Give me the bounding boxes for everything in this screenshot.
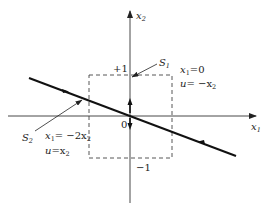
s1-equation-2: u= −x2 [180,78,216,91]
origin-label: 0 [121,119,127,130]
s2-label: S2 [22,132,33,145]
s2-equation-1: x1= −2x2 [45,130,91,143]
s2-pointer [35,100,82,131]
tick-plus-one: +1 [113,63,128,74]
x1-axis-label: x1 [251,121,261,134]
up-arrow-icon [128,98,133,105]
s1-equation-1: x1=0 [180,64,205,77]
x2-axis-label: x2 [136,10,146,23]
down-arrow-icon [128,123,133,130]
phase-plane-diagram: x2 x1 0 +1 −1 S1 x1=0 u= −x2 S2 x1= −2x2… [0,0,268,211]
s2-equation-2: u=x2 [45,145,70,158]
tick-minus-one: −1 [136,162,151,173]
s1-label: S1 [159,57,170,70]
